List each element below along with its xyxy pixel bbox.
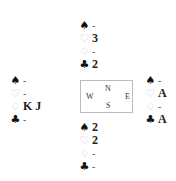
compass-box: N W E S: [80, 80, 133, 113]
heart-icon: ♡: [10, 87, 21, 100]
compass-south-label: S: [106, 102, 110, 110]
south-hearts-row: ♡ 2: [79, 134, 119, 147]
south-diamonds-cards: -: [92, 147, 95, 160]
club-icon: ♣: [79, 58, 90, 71]
hand-east: ♠ - ♡ A ♢ - ♣ A: [145, 74, 176, 126]
east-hearts-cards: A: [158, 87, 167, 100]
compass-west-label: W: [86, 93, 94, 101]
west-diamonds-cards: K J: [23, 100, 41, 113]
north-spades-row: ♠ -: [79, 19, 119, 32]
spade-icon: ♠: [79, 19, 90, 32]
south-clubs-cards: -: [92, 160, 95, 173]
heart-icon: ♡: [79, 32, 90, 45]
club-icon: ♣: [145, 113, 156, 126]
north-hearts-row: ♡ 3: [79, 32, 119, 45]
west-spades-cards: -: [23, 74, 26, 87]
west-spades-row: ♠ -: [10, 74, 50, 87]
south-diamonds-row: ♢ -: [79, 147, 119, 160]
spade-icon: ♠: [145, 74, 156, 87]
north-clubs-cards: 2: [92, 58, 98, 71]
diamond-icon: ♢: [79, 147, 90, 160]
hand-west: ♠ - ♡ - ♢ K J ♣ -: [10, 74, 50, 126]
north-diamonds-row: ♢ -: [79, 45, 119, 58]
spade-icon: ♠: [10, 74, 21, 87]
compass-east-label: E: [125, 93, 130, 101]
south-clubs-row: ♣ -: [79, 160, 119, 173]
compass-north-label: N: [105, 85, 111, 93]
hand-south: ♠ 2 ♡ 2 ♢ - ♣ -: [79, 121, 119, 173]
west-clubs-row: ♣ -: [10, 113, 50, 126]
diamond-icon: ♢: [79, 45, 90, 58]
club-icon: ♣: [79, 160, 90, 173]
north-hearts-cards: 3: [92, 32, 98, 45]
club-icon: ♣: [10, 113, 21, 126]
east-hearts-row: ♡ A: [145, 87, 176, 100]
spade-icon: ♠: [79, 121, 90, 134]
hand-north: ♠ - ♡ 3 ♢ - ♣ 2: [79, 19, 119, 71]
diamond-icon: ♢: [145, 100, 156, 113]
south-hearts-cards: 2: [92, 134, 98, 147]
diamond-icon: ♢: [10, 100, 21, 113]
south-spades-row: ♠ 2: [79, 121, 119, 134]
west-clubs-cards: -: [23, 113, 26, 126]
east-clubs-row: ♣ A: [145, 113, 176, 126]
heart-icon: ♡: [145, 87, 156, 100]
heart-icon: ♡: [79, 134, 90, 147]
north-clubs-row: ♣ 2: [79, 58, 119, 71]
east-clubs-cards: A: [158, 113, 167, 126]
west-diamonds-row: ♢ K J: [10, 100, 50, 113]
